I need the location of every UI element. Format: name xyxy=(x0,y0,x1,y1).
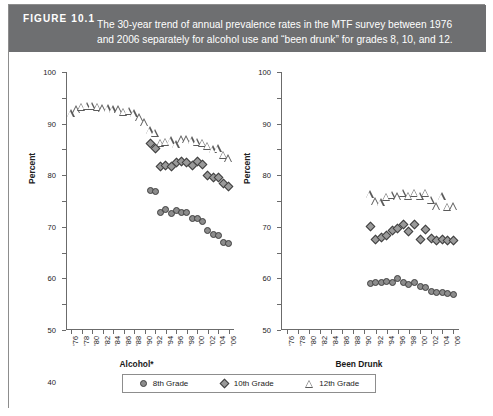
data-point-diamond xyxy=(198,160,208,170)
x-tick-label: '84 xyxy=(331,336,340,346)
x-tick-label: '88 xyxy=(134,336,143,346)
y-tick: 60 xyxy=(277,175,281,176)
data-point-circle xyxy=(152,188,159,195)
x-tick-label: '94 xyxy=(166,336,175,346)
chart-panel-alcohol: Percent 0102030405060708090100 '76'78'80… xyxy=(29,66,244,366)
legend-item-10th-grade: 10th Grade xyxy=(220,379,274,388)
x-tick: '96 xyxy=(176,330,177,334)
y-tick: 50 xyxy=(277,201,281,202)
x-tick-label: '06 xyxy=(453,336,462,346)
data-point-circle xyxy=(450,291,457,298)
y-tick-label: 100 xyxy=(43,68,56,77)
x-tick-label: '04 xyxy=(218,336,227,346)
data-point-triangle xyxy=(224,154,232,162)
y-tick: 40 xyxy=(277,227,281,228)
x-tick: '92 xyxy=(155,330,156,334)
legend-item-12th-grade: 12th Grade xyxy=(305,379,359,388)
data-point-diamond xyxy=(421,224,431,234)
x-tick-label: '86 xyxy=(124,336,133,346)
y-tick: 70 xyxy=(62,149,66,150)
x-tick-label: '92 xyxy=(155,336,164,346)
data-point-triangle xyxy=(438,192,446,200)
data-point-circle xyxy=(225,240,232,247)
y-tick: 80 xyxy=(62,124,66,125)
y-tick-label: 40 xyxy=(48,377,56,386)
x-tick-label: '00 xyxy=(197,336,206,346)
legend-item-8th-grade: 8th Grade xyxy=(139,379,189,388)
x-tick-label: '80 xyxy=(92,336,101,346)
x-tick: '02 xyxy=(431,330,432,334)
figure-number-label: FIGURE 10.1 xyxy=(9,13,97,24)
x-axis-line-been-drunk xyxy=(281,329,459,330)
x-tick: '82 xyxy=(103,330,104,334)
x-tick: '88 xyxy=(134,330,135,334)
x-tick: '86 xyxy=(124,330,125,334)
data-point-diamond xyxy=(448,236,458,246)
x-tick-label: '92 xyxy=(376,336,385,346)
x-tick-label: '94 xyxy=(387,336,396,346)
figure-caption-line-1: The 30-year trend of annual prevalence r… xyxy=(97,17,453,32)
y-tick: 10 xyxy=(62,304,66,305)
x-tick-label: '88 xyxy=(353,336,362,346)
x-tick: '04 xyxy=(218,330,219,334)
x-tick: '02 xyxy=(208,330,209,334)
y-axis-title-been-drunk: Percent xyxy=(242,153,252,184)
x-tick: '98 xyxy=(409,330,410,334)
y-tick: 0 xyxy=(62,330,66,331)
data-point-triangle xyxy=(432,202,440,210)
plot-box-alcohol: 0102030405060708090100 '76'78'80'82'84'8… xyxy=(66,72,234,330)
y-tick: 20 xyxy=(277,278,281,279)
y-tick: 20 xyxy=(62,278,66,279)
diamond-icon xyxy=(220,379,229,388)
figure-card: FIGURE 10.1 The 30-year trend of annual … xyxy=(8,4,485,408)
figure-caption: The 30-year trend of annual prevalence r… xyxy=(97,17,467,47)
x-axis-title-been-drunk: Been Drunk xyxy=(244,359,474,369)
chart-legend: 8th Grade 10th Grade 12th Grade xyxy=(122,374,376,393)
x-tick-label: '04 xyxy=(442,336,451,346)
data-point-diamond xyxy=(410,220,420,230)
y-tick-label: 60 xyxy=(48,274,56,283)
y-tick-label: 100 xyxy=(258,68,271,77)
x-tick-label: '84 xyxy=(113,336,122,346)
y-tick: 10 xyxy=(277,304,281,305)
x-tick: '80 xyxy=(309,330,310,334)
x-tick: '96 xyxy=(398,330,399,334)
data-point-diamond xyxy=(365,222,375,232)
legend-label-10th-grade: 10th Grade xyxy=(234,379,274,388)
x-tick-label: '98 xyxy=(409,336,418,346)
x-tick-label: '90 xyxy=(364,336,373,346)
y-tick: 60 xyxy=(62,175,66,176)
y-tick: 30 xyxy=(277,253,281,254)
x-tick: '04 xyxy=(442,330,443,334)
data-point-circle xyxy=(199,218,206,225)
data-point-diamond xyxy=(415,234,425,244)
x-tick-label: '76 xyxy=(287,336,296,346)
x-tick: '78 xyxy=(298,330,299,334)
data-point-triangle xyxy=(449,202,457,210)
x-tick: '00 xyxy=(420,330,421,334)
x-tick: '06 xyxy=(453,330,454,334)
x-tick: '86 xyxy=(342,330,343,334)
x-axis-line-alcohol xyxy=(66,329,234,330)
y-tick: 30 xyxy=(62,253,66,254)
y-tick: 70 xyxy=(277,149,281,150)
x-tick: '06 xyxy=(229,330,230,334)
x-tick: '90 xyxy=(145,330,146,334)
x-tick-label: '82 xyxy=(320,336,329,346)
x-tick: '88 xyxy=(353,330,354,334)
y-tick: 50 xyxy=(62,201,66,202)
x-tick-label: '78 xyxy=(82,336,91,346)
x-tick: '80 xyxy=(92,330,93,334)
x-tick-label: '86 xyxy=(342,336,351,346)
y-tick: 90 xyxy=(277,98,281,99)
y-axis-title-alcohol: Percent xyxy=(27,153,37,184)
y-tick-label: 90 xyxy=(48,119,56,128)
x-tick-label: '82 xyxy=(103,336,112,346)
y-tick-label: 80 xyxy=(48,171,56,180)
x-axis-title-alcohol: Alcohol* xyxy=(29,359,244,369)
chart-panel-been-drunk: Percent 0102030405060708090100 '76'78'80… xyxy=(244,66,474,366)
data-point-circle xyxy=(215,232,222,239)
x-tick: '76 xyxy=(287,330,288,334)
x-tick: '84 xyxy=(331,330,332,334)
x-tick-label: '78 xyxy=(298,336,307,346)
